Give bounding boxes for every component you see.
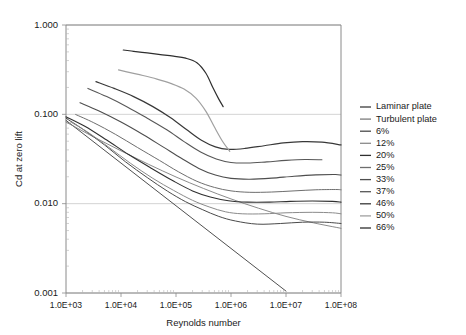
xtick-label: 1.0E+06 (215, 300, 247, 310)
series-line-12 (70, 122, 341, 214)
legend-label: 37% (376, 186, 394, 196)
series-line-laminar-plate (66, 120, 286, 291)
y-axis-title: Cd at zero lift (13, 131, 24, 187)
xtick-label: 1.0E+03 (50, 300, 82, 310)
grid-lines (66, 25, 341, 293)
xtick-label: 1.0E+05 (160, 300, 192, 310)
legend-item[interactable]: 46% (360, 198, 394, 208)
legend-label: 33% (376, 174, 394, 184)
legend-item[interactable]: 33% (360, 174, 394, 184)
legend-label: 50% (376, 210, 394, 220)
series-line-50 (118, 70, 229, 152)
legend-item[interactable]: Turbulent plate (360, 114, 437, 124)
ytick-label: 0.001 (34, 287, 58, 298)
xtick-label: 1.0E+07 (270, 300, 302, 310)
ytick-labels: 1.0000.1000.0100.001 (34, 19, 58, 298)
xtick-labels: 1.0E+031.0E+041.0E+051.0E+061.0E+071.0E+… (50, 300, 357, 310)
legend-label: Laminar plate (376, 101, 432, 111)
series-paths (66, 50, 341, 291)
series-line-46 (96, 82, 341, 150)
ytick-label: 0.010 (34, 197, 58, 208)
legend-label: 20% (376, 150, 394, 160)
legend-label: 46% (376, 198, 394, 208)
chart-container: 1.0000.1000.0100.001 1.0E+031.0E+041.0E+… (0, 0, 466, 335)
ytick-label: 0.100 (34, 108, 58, 119)
legend-item[interactable]: 66% (360, 222, 394, 232)
reynolds-drag-chart: 1.0000.1000.0100.001 1.0E+031.0E+041.0E+… (0, 0, 466, 335)
legend: Laminar plateTurbulent plate6%12%20%25%3… (360, 101, 437, 232)
legend-item[interactable]: 12% (360, 138, 394, 148)
legend-label: Turbulent plate (376, 114, 437, 124)
xtick-label: 1.0E+08 (325, 300, 357, 310)
legend-item[interactable]: 37% (360, 186, 394, 196)
x-axis-title: Reynolds number (166, 317, 240, 328)
legend-label: 12% (376, 138, 394, 148)
xtick-label: 1.0E+04 (105, 300, 137, 310)
legend-item[interactable]: 25% (360, 162, 394, 172)
series-line-6 (66, 118, 341, 224)
legend-label: 25% (376, 162, 394, 172)
axis-lines (66, 25, 341, 293)
series-line-66 (123, 50, 223, 107)
axis-ticks (62, 25, 341, 297)
legend-label: 6% (376, 126, 389, 136)
legend-item[interactable]: 6% (360, 126, 389, 136)
legend-item[interactable]: 50% (360, 210, 394, 220)
legend-item[interactable]: Laminar plate (360, 101, 432, 111)
ytick-label: 1.000 (34, 19, 58, 30)
legend-label: 66% (376, 222, 394, 232)
legend-item[interactable]: 20% (360, 150, 394, 160)
plot-frame (66, 25, 341, 293)
